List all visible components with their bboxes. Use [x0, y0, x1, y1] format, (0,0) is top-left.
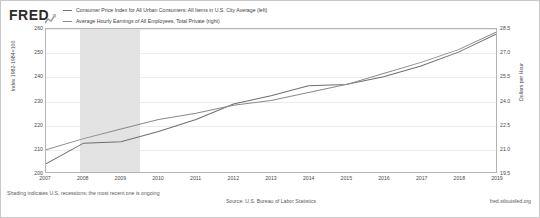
legend-line-swatch-cpi — [63, 10, 72, 11]
x-axis: 2007200820092010201120122013201420152016… — [45, 175, 497, 185]
legend-line-swatch-earnings — [63, 21, 72, 22]
mini-line-chart-icon — [45, 10, 56, 20]
plot-area — [45, 28, 497, 173]
fred-url[interactable]: fred.stlouisfed.org — [490, 198, 531, 204]
legend-item-cpi[interactable]: Consumer Price Index for All Urban Consu… — [63, 6, 267, 15]
x-tick: 2010 — [145, 175, 171, 181]
x-tick: 2019 — [484, 175, 510, 181]
chart-header: FRED Consumer Price Index for All Urban … — [1, 1, 540, 27]
plot-inner — [46, 29, 496, 172]
x-tick: 2008 — [70, 175, 96, 181]
y-tick-left: 260 — [21, 25, 43, 31]
fred-chart-figure: FRED Consumer Price Index for All Urban … — [0, 0, 540, 218]
series-line-earnings — [46, 32, 496, 150]
source-text: Source: U.S. Bureau of Labor Statistics — [1, 198, 540, 204]
series-line-cpi — [46, 34, 496, 164]
legend-label-cpi: Consumer Price Index for All Urban Consu… — [76, 7, 267, 14]
y-tick-left: 220 — [21, 122, 43, 128]
y-tick-right: 22.5 — [500, 122, 522, 128]
x-tick: 2017 — [409, 175, 435, 181]
y-tick-left: 230 — [21, 98, 43, 104]
x-tick: 2018 — [446, 175, 472, 181]
y-axis-right-title: Dollars per Hour — [518, 47, 524, 117]
series-lines — [46, 29, 496, 172]
recession-note: Shading indicates U.S. recessions; the m… — [7, 189, 207, 197]
x-tick: 2009 — [107, 175, 133, 181]
y-tick-left: 210 — [21, 146, 43, 152]
x-tick: 2012 — [220, 175, 246, 181]
x-tick: 2013 — [258, 175, 284, 181]
chart-legend: Consumer Price Index for All Urban Consu… — [63, 6, 267, 28]
y-tick-right: 21.0 — [500, 146, 522, 152]
x-tick: 2007 — [32, 175, 58, 181]
x-tick: 2016 — [371, 175, 397, 181]
x-tick: 2015 — [333, 175, 359, 181]
x-tick: 2011 — [183, 175, 209, 181]
legend-label-earnings: Average Hourly Earnings of All Employees… — [76, 18, 220, 25]
y-axis-left-title: Index 1982-1984=100 — [10, 21, 16, 111]
y-tick-left: 240 — [21, 73, 43, 79]
y-tick-left: 250 — [21, 49, 43, 55]
x-tick: 2014 — [296, 175, 322, 181]
y-tick-right: 28.5 — [500, 25, 522, 31]
legend-item-earnings[interactable]: Average Hourly Earnings of All Employees… — [63, 17, 267, 26]
y-axis-left: 200210220230240250260 — [15, 28, 43, 173]
